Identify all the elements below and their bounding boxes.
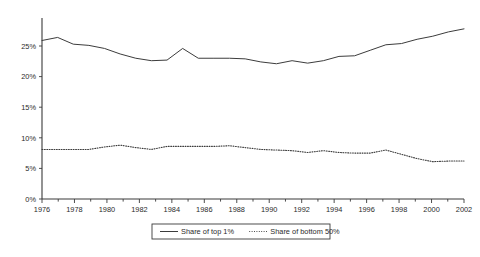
x-tick-label: 1998 <box>391 205 407 214</box>
x-tick-label: 2000 <box>423 205 439 214</box>
y-tick-label: 0% <box>25 195 36 204</box>
y-tick-label: 10% <box>21 134 36 143</box>
y-axis-tick-group: 0%5%10%15%20%25% <box>21 42 42 204</box>
y-tick-label: 20% <box>21 72 36 81</box>
legend-label-2: Share of bottom 50% <box>270 227 340 236</box>
line-chart: 0%5%10%15%20%25% 19761978198019821984198… <box>0 0 480 257</box>
x-tick-label: 1976 <box>34 205 50 214</box>
x-tick-label: 1978 <box>66 205 82 214</box>
x-tick-label: 1984 <box>164 205 180 214</box>
series-line-share-of-bottom-50-percent <box>42 145 464 162</box>
x-axis-tick-group: 1976197819801982198419861988199019921994… <box>34 199 472 214</box>
x-tick-label: 1994 <box>326 205 342 214</box>
x-tick-label: 1988 <box>229 205 245 214</box>
y-tick-label: 5% <box>25 164 36 173</box>
chart-legend: Share of top 1%Share of bottom 50% <box>152 224 340 239</box>
y-tick-label: 15% <box>21 103 36 112</box>
series-line-share-of-top-1-percent <box>42 29 464 64</box>
x-tick-label: 1992 <box>293 205 309 214</box>
x-tick-label: 1980 <box>99 205 115 214</box>
x-tick-label: 1996 <box>358 205 374 214</box>
x-tick-label: 1990 <box>261 205 277 214</box>
y-tick-label: 25% <box>21 42 36 51</box>
x-tick-label: 2002 <box>456 205 472 214</box>
legend-label-1: Share of top 1% <box>181 227 234 236</box>
x-tick-label: 1982 <box>131 205 147 214</box>
chart-container: 0%5%10%15%20%25% 19761978198019821984198… <box>0 0 480 257</box>
x-tick-label: 1986 <box>196 205 212 214</box>
